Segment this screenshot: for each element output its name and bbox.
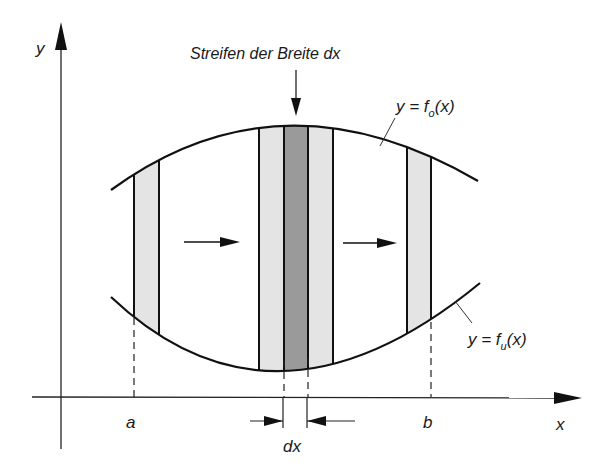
- dx-right-arrow-icon: [307, 416, 326, 426]
- sweep-arrow-right: [343, 238, 397, 248]
- bound-a-label: a: [126, 413, 135, 432]
- upper-curve-suffix: (x): [435, 97, 455, 116]
- y-axis-arrow-icon: [55, 22, 67, 50]
- lower-curve-label: y = fu(x): [467, 330, 527, 352]
- strip-left-of-center: [259, 100, 284, 400]
- dx-label: dx: [283, 437, 301, 456]
- leader-lower-curve: [455, 301, 472, 323]
- diagram-canvas: y x Streifen der Breite dx y = fo(x) y =…: [0, 0, 614, 472]
- strip-right-of-center: [308, 100, 333, 400]
- strip-at-a: [134, 100, 159, 400]
- arrow-right-icon: [377, 238, 397, 248]
- y-axis-label: y: [35, 39, 46, 58]
- lower-curve-suffix: (x): [507, 330, 527, 349]
- x-axis-arrow-icon: [554, 392, 582, 404]
- upper-curve-prefix: y = f: [395, 97, 431, 116]
- arrow-right-icon: [220, 237, 240, 247]
- strip-title-label: Streifen der Breite dx: [190, 45, 341, 62]
- x-axis-label: x: [555, 415, 565, 434]
- strip-center-highlighted: [284, 100, 308, 400]
- arrow-down-icon: [291, 98, 301, 116]
- title-pointer-arrow: [291, 70, 301, 116]
- sweep-arrow-left: [184, 237, 240, 247]
- upper-curve-label: y = fo(x): [395, 97, 455, 119]
- strips-group: [134, 100, 431, 400]
- y-axis: [55, 22, 67, 449]
- lower-curve-prefix: y = f: [467, 330, 503, 349]
- dx-left-arrow-icon: [264, 416, 283, 426]
- bound-b-label: b: [423, 413, 432, 432]
- dx-dimension: [250, 397, 355, 428]
- strip-at-b: [407, 100, 431, 400]
